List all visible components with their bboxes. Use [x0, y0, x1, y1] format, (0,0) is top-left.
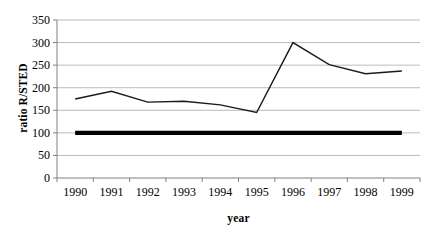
gridlines	[57, 20, 420, 155]
series-line-0	[75, 43, 402, 113]
x-axis-title: year	[57, 212, 420, 224]
plot-area	[0, 0, 433, 242]
tick-marks	[53, 20, 420, 182]
axis-lines	[57, 20, 420, 178]
line-chart: ratio R/STED 050100150200250300350 19901…	[0, 0, 433, 242]
